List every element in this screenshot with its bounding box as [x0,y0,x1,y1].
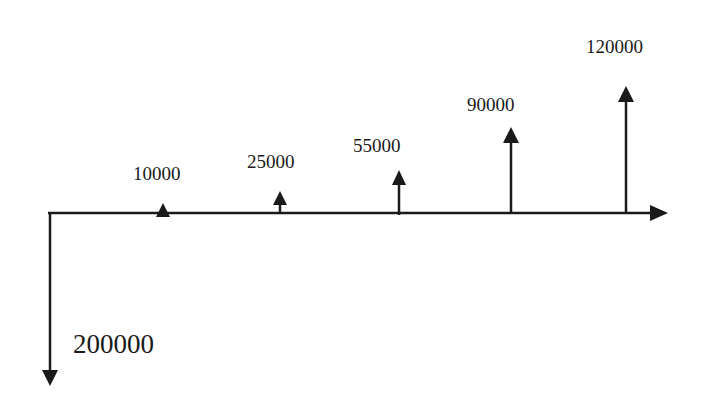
axis-arrowhead-icon [650,205,668,221]
inflow-arrow-2 [273,191,287,213]
down-arrowhead-icon [42,370,58,386]
inflow-label-3: 55000 [353,136,401,155]
outflow-arrow [42,213,58,386]
inflow-label-2: 25000 [247,152,295,171]
up-arrowhead-icon [503,127,519,143]
up-arrowhead-icon [392,170,406,185]
inflow-label-4: 90000 [467,95,515,114]
up-arrowhead-icon [273,191,287,205]
up-arrowhead-icon [156,203,170,217]
inflow-label-1: 10000 [133,164,181,183]
outflow-label: 200000 [73,331,154,358]
inflow-arrow-3 [392,170,406,215]
inflow-arrow-4 [503,127,519,213]
inflow-label-5: 120000 [586,37,643,56]
time-axis [48,205,668,221]
inflow-arrow-5 [618,86,634,213]
up-arrowhead-icon [618,86,634,102]
inflow-arrow-1 [156,203,170,217]
